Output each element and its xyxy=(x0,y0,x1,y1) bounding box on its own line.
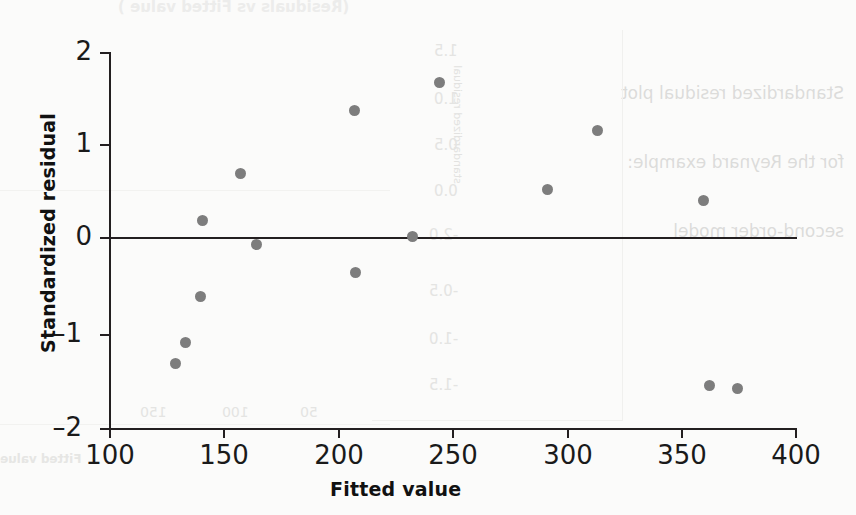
y-axis-line xyxy=(109,52,111,430)
data-point xyxy=(434,77,445,88)
x-tick-label-150: 150 xyxy=(184,440,264,470)
data-point xyxy=(180,337,191,348)
data-point xyxy=(407,231,418,242)
data-point xyxy=(251,239,262,250)
data-point xyxy=(170,358,181,369)
x-tick-mark-250 xyxy=(452,428,454,438)
data-point xyxy=(698,195,709,206)
data-point xyxy=(350,267,361,278)
x-tick-mark-400 xyxy=(795,428,797,438)
data-point xyxy=(592,125,603,136)
x-tick-label-200: 200 xyxy=(299,440,379,470)
data-point xyxy=(542,184,553,195)
x-tick-mark-300 xyxy=(567,428,569,438)
y-axis-title: Standardized residual xyxy=(37,103,59,363)
y-tick-mark-1 xyxy=(100,144,110,146)
data-point xyxy=(732,383,743,394)
x-tick-mark-200 xyxy=(338,428,340,438)
y-tick-label-2: 2 xyxy=(46,36,92,66)
x-tick-label-300: 300 xyxy=(528,440,608,470)
data-point xyxy=(704,380,715,391)
x-tick-label-250: 250 xyxy=(413,440,493,470)
y-tick-label-m2: –2 xyxy=(36,412,82,442)
x-tick-label-350: 350 xyxy=(642,440,722,470)
x-tick-mark-100 xyxy=(109,428,111,438)
y-tick-mark-2 xyxy=(100,52,110,54)
y-tick-mark-m1 xyxy=(100,334,110,336)
y-tick-mark-0 xyxy=(100,237,110,239)
x-axis-title: Fitted value xyxy=(330,478,461,500)
data-point xyxy=(197,215,208,226)
chart-page: (Residuals vs Fitted value ) Standardize… xyxy=(0,0,856,515)
x-tick-label-100: 100 xyxy=(70,440,150,470)
x-tick-mark-350 xyxy=(681,428,683,438)
data-point xyxy=(235,168,246,179)
x-tick-label-400: 400 xyxy=(756,440,836,470)
data-point xyxy=(349,105,360,116)
zero-reference-line xyxy=(110,237,797,239)
data-point xyxy=(195,291,206,302)
x-tick-mark-150 xyxy=(223,428,225,438)
scatter-plot: 2 1 0 –1 –2 100 150 200 250 300 350 400 … xyxy=(0,0,856,515)
